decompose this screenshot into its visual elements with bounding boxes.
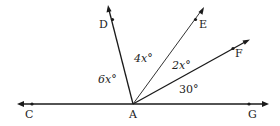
label-g: G xyxy=(248,108,257,121)
angle-label-fag: 30° xyxy=(179,83,199,96)
arrow-d-icon xyxy=(107,5,112,13)
arrow-f-icon xyxy=(243,40,251,45)
arrow-left-icon xyxy=(17,101,24,107)
point-e-dot xyxy=(194,18,197,21)
angle-label-cad: 6x° xyxy=(98,73,117,86)
label-vertex-a: A xyxy=(128,108,138,121)
line-cg xyxy=(17,101,269,107)
point-d-dot xyxy=(111,18,114,21)
label-c: C xyxy=(25,108,33,121)
label-e: E xyxy=(199,18,207,31)
ray-ad xyxy=(107,5,134,104)
angle-label-eaf: 2x° xyxy=(171,59,191,72)
arrow-right-icon xyxy=(262,101,269,107)
angle-diagram: C A D E F G 6x° 4x° 2x° 30° xyxy=(0,0,280,126)
angle-label-dae: 4x° xyxy=(133,52,153,65)
point-c-dot xyxy=(30,102,33,105)
label-d: D xyxy=(99,18,108,31)
point-g-dot xyxy=(247,102,250,105)
label-f: F xyxy=(235,47,243,60)
